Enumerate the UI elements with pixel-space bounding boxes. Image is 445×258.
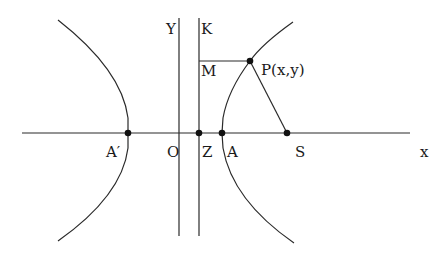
label-a: A [226,143,238,161]
label-y-axis: Y [165,20,177,38]
label-s: S [295,143,305,161]
label-x-axis: x [420,143,429,161]
hyperbola-left-branch [58,20,128,241]
label-p: P(x,y) [261,61,305,79]
label-m: M [201,62,216,80]
label-o: O [167,143,179,161]
hyperbola-diagram: Y K M P(x,y) A′ O Z A S x [0,0,445,258]
label-a-prime: A′ [105,143,121,161]
point-a-prime [125,130,132,137]
label-k: K [201,20,213,38]
point-a [219,130,226,137]
point-s [284,130,291,137]
point-p [247,58,254,65]
label-z: Z [202,143,212,161]
point-z [196,130,203,137]
